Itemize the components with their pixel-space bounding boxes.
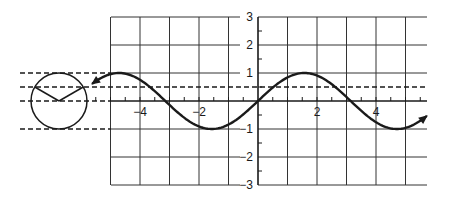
angle-ray-right xyxy=(59,87,83,101)
axes xyxy=(96,17,427,185)
sine-wave-figure: −4−224321−1−2−3 xyxy=(0,0,451,204)
angle-ray-left xyxy=(35,87,59,101)
y-tick-label: 2 xyxy=(246,38,253,52)
y-tick-label: −1 xyxy=(239,122,253,136)
y-tick-label: −3 xyxy=(239,178,253,192)
y-tick-label: −2 xyxy=(239,150,253,164)
x-tick-label: 4 xyxy=(373,105,380,119)
y-tick-label: 3 xyxy=(246,10,253,24)
x-tick-label: −2 xyxy=(192,105,206,119)
x-tick-label: −4 xyxy=(133,105,147,119)
y-tick-label: 1 xyxy=(246,66,253,80)
sine-wave-diagram: −4−224321−1−2−3 xyxy=(0,0,451,204)
x-tick-label: 2 xyxy=(314,105,321,119)
